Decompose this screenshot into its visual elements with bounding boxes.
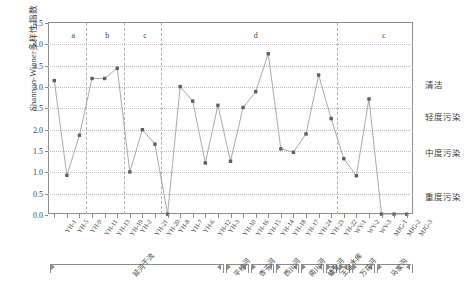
x-axis-tick-mark: [54, 214, 55, 218]
data-point: [254, 90, 257, 93]
y-axis-tick-label: 3.0: [33, 83, 43, 92]
y-axis-tick-label: 4.5: [33, 19, 43, 28]
group-arrow-left: [302, 264, 306, 270]
x-axis-tick-mark: [130, 214, 131, 218]
x-axis-tick-label: YH-1: [63, 218, 77, 234]
x-axis-tick-mark: [331, 214, 332, 218]
data-point: [191, 99, 194, 102]
x-axis-tick-label: WY-3: [378, 218, 393, 235]
data-point: [329, 117, 332, 120]
x-axis-tick-label: YH-6: [202, 218, 216, 234]
data-series: [48, 23, 413, 215]
y-axis-tick-label: 0.5: [33, 189, 43, 198]
y-axis-tick-label: 2.5: [33, 104, 43, 113]
data-point: [367, 97, 370, 100]
group-arrow-left: [353, 264, 357, 270]
x-axis-tick-mark: [205, 214, 206, 218]
series-line: [54, 54, 406, 214]
x-axis-tick-mark: [142, 214, 143, 218]
group-arrow-left: [378, 264, 382, 270]
data-point: [292, 151, 295, 154]
x-axis-tick-mark: [369, 214, 370, 218]
x-axis-tick-mark: [231, 214, 232, 218]
plot-area: 0.00.51.01.52.02.53.03.54.04.5abcdc: [48, 22, 413, 214]
pollution-level-annotation: 重度污染: [425, 190, 461, 202]
group-arrow-left: [227, 264, 231, 270]
y-axis-tick-label: 1.5: [33, 147, 43, 156]
data-point: [128, 170, 131, 173]
x-axis-tick-mark: [180, 214, 181, 218]
x-axis-tick-mark: [168, 214, 169, 218]
x-axis-tick-mark: [155, 214, 156, 218]
x-axis-tick-mark: [319, 214, 320, 218]
group-arrow-left: [277, 264, 281, 270]
data-point: [141, 128, 144, 131]
x-axis-tick-mark: [105, 214, 106, 218]
y-axis-tick-label: 3.5: [33, 61, 43, 70]
x-axis-tick-mark: [306, 214, 307, 218]
x-axis-tick-mark: [243, 214, 244, 218]
x-axis-tick-mark: [407, 214, 408, 218]
data-point: [342, 157, 345, 160]
x-axis-tick-label: YH-5: [76, 218, 90, 234]
data-point: [153, 142, 156, 145]
data-point: [53, 79, 56, 82]
x-axis-tick-mark: [67, 214, 68, 218]
data-point: [78, 134, 81, 137]
x-axis-tick-mark: [268, 214, 269, 218]
x-axis-tick-mark: [293, 214, 294, 218]
x-axis-tick-mark: [79, 214, 80, 218]
data-point: [267, 52, 270, 55]
x-axis-tick-mark: [256, 214, 257, 218]
y-axis-tick-label: 0.0: [33, 211, 43, 220]
group-arrow-left: [252, 264, 256, 270]
data-point: [65, 174, 68, 177]
chart-container: Shannon-Wiener多样性指数 0.00.51.01.52.02.53.…: [0, 0, 473, 302]
group-bracket-end: [223, 264, 224, 273]
data-point: [355, 174, 358, 177]
data-point: [317, 73, 320, 76]
x-axis-tick-mark: [344, 214, 345, 218]
y-axis-tick-label: 1.0: [33, 168, 43, 177]
pollution-level-annotation: 轻度污染: [425, 110, 461, 122]
data-point: [279, 147, 282, 150]
y-axis-tick-mark: [45, 215, 49, 216]
y-axis-tick-label: 4.0: [33, 40, 43, 49]
data-point: [216, 104, 219, 107]
data-point: [304, 132, 307, 135]
x-axis-tick-mark: [92, 214, 93, 218]
y-axis-tick-label: 2.0: [33, 125, 43, 134]
x-axis-tick-mark: [394, 214, 395, 218]
x-axis-tick-label: YH-9: [88, 218, 102, 234]
group-arrow-left: [51, 264, 55, 270]
data-point: [103, 77, 106, 80]
data-point: [229, 160, 232, 163]
data-point: [204, 161, 207, 164]
x-axis-tick-mark: [218, 214, 219, 218]
x-axis-tick-mark: [281, 214, 282, 218]
group-bracket-end: [412, 264, 413, 273]
x-axis-tick-mark: [193, 214, 194, 218]
data-point: [241, 106, 244, 109]
x-axis-tick-mark: [382, 214, 383, 218]
pollution-level-annotation: 中度污染: [425, 146, 461, 158]
data-point: [178, 85, 181, 88]
group-arrow-right: [217, 264, 221, 270]
x-axis-tick-label: WY-2: [366, 218, 381, 235]
x-axis-tick-mark: [356, 214, 357, 218]
data-point: [116, 67, 119, 70]
data-point: [90, 77, 93, 80]
x-axis-tick-label: YH-7: [189, 218, 203, 234]
x-axis-tick-mark: [117, 214, 118, 218]
pollution-level-annotation: 清洁: [425, 78, 443, 90]
